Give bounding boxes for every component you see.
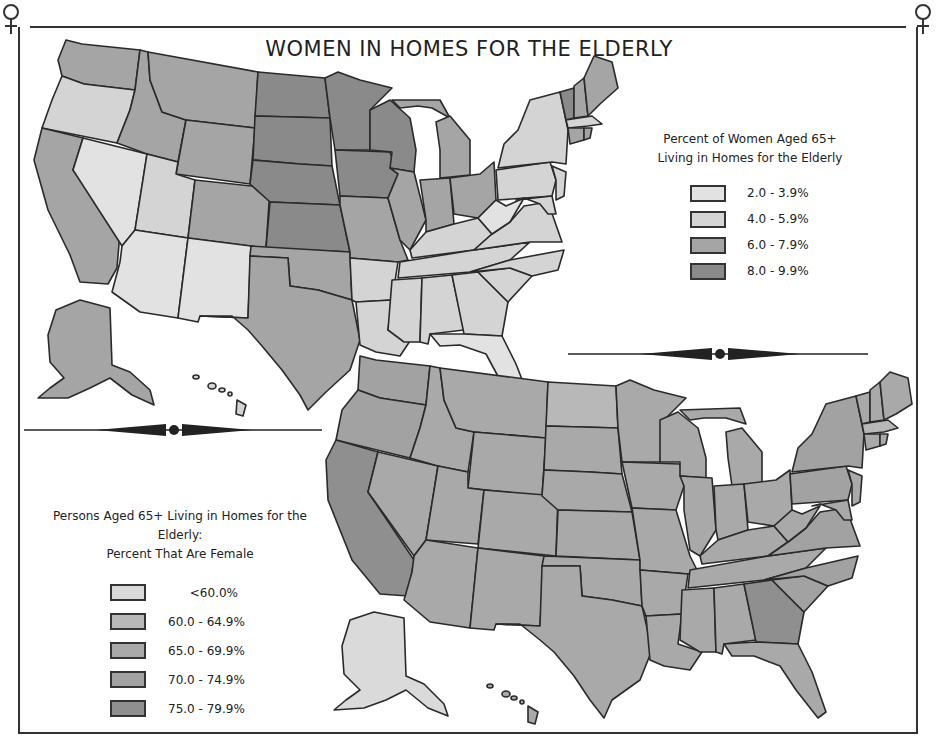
- state-MI-lower: [726, 428, 762, 486]
- bottom-map: [326, 356, 912, 724]
- state-ME: [880, 372, 912, 420]
- state-MI-lower: [436, 116, 470, 178]
- state-NY: [498, 92, 568, 168]
- top-map: [34, 40, 618, 416]
- state-NM: [470, 548, 544, 630]
- state-MS: [680, 588, 716, 652]
- legend-swatch: [110, 700, 146, 717]
- divider-left: [24, 424, 322, 436]
- legend-swatch: [110, 613, 146, 630]
- legend-swatch: [690, 185, 726, 202]
- legend-item: 6.0 - 7.9%: [690, 232, 870, 258]
- state-NY: [792, 396, 864, 472]
- state-HI: [193, 375, 246, 416]
- state-FL: [724, 642, 826, 718]
- state-IN: [420, 178, 454, 232]
- legend-item: 65.0 - 69.9%: [110, 636, 330, 665]
- legend-swatch: [110, 642, 146, 659]
- state-AK: [334, 612, 448, 716]
- state-RI: [584, 128, 592, 140]
- state-MS: [388, 278, 422, 342]
- legend-label: 8.0 - 9.9%: [747, 264, 809, 278]
- state-IA: [622, 462, 684, 510]
- state-NM: [178, 238, 251, 322]
- legend-women-percent: Percent of Women Aged 65+ Living in Home…: [630, 130, 870, 284]
- state-KS: [266, 202, 350, 252]
- state-KS: [556, 510, 640, 560]
- legend-item: 4.0 - 5.9%: [690, 206, 870, 232]
- state-WY: [468, 432, 546, 496]
- state-CT: [568, 128, 584, 144]
- legend-label: 6.0 - 7.9%: [747, 238, 809, 252]
- legend-item: 75.0 - 79.9%: [110, 694, 330, 723]
- legend-item: <60.0%: [110, 578, 330, 607]
- state-WY: [176, 120, 255, 184]
- legend-label: 2.0 - 3.9%: [747, 186, 809, 200]
- state-ND: [255, 72, 330, 118]
- state-AK: [38, 300, 154, 405]
- state-MT: [440, 368, 548, 438]
- legend-item: 8.0 - 9.9%: [690, 258, 870, 284]
- legend-swatch: [690, 263, 726, 280]
- legend-female-percent: Persons Aged 65+ Living in Homes for the…: [30, 507, 330, 723]
- state-AZ: [404, 540, 478, 628]
- legend-item: 2.0 - 3.9%: [690, 180, 870, 206]
- legend-label: 4.0 - 5.9%: [747, 212, 809, 226]
- state-ND: [546, 382, 618, 428]
- state-SD: [544, 426, 622, 474]
- legend-label: 60.0 - 64.9%: [168, 615, 258, 629]
- state-CT: [864, 434, 880, 450]
- legend-title-line2: Living in Homes for the Elderly: [630, 149, 870, 168]
- state-IA: [335, 150, 398, 198]
- divider-right: [568, 348, 868, 360]
- state-HI: [487, 684, 538, 724]
- state-RI: [880, 434, 888, 446]
- state-NE: [542, 470, 632, 512]
- legend-label: <60.0%: [168, 586, 238, 600]
- state-SD: [253, 116, 332, 166]
- legend-swatch: [690, 211, 726, 228]
- legend-swatch: [110, 584, 146, 601]
- legend-label: 75.0 - 79.9%: [168, 702, 258, 716]
- legend-title-line2: Percent That Are Female: [30, 545, 330, 564]
- legend-label: 65.0 - 69.9%: [168, 644, 258, 658]
- state-ME: [584, 56, 618, 116]
- legend-swatch: [690, 237, 726, 254]
- legend-item: 60.0 - 64.9%: [110, 607, 330, 636]
- legend-title-line1: Persons Aged 65+ Living in Homes for the…: [30, 507, 330, 545]
- state-AZ: [112, 230, 188, 318]
- legend-label: 70.0 - 74.9%: [168, 673, 258, 687]
- legend-swatch: [110, 671, 146, 688]
- legend-item: 70.0 - 74.9%: [110, 665, 330, 694]
- legend-title-line1: Percent of Women Aged 65+: [630, 130, 870, 149]
